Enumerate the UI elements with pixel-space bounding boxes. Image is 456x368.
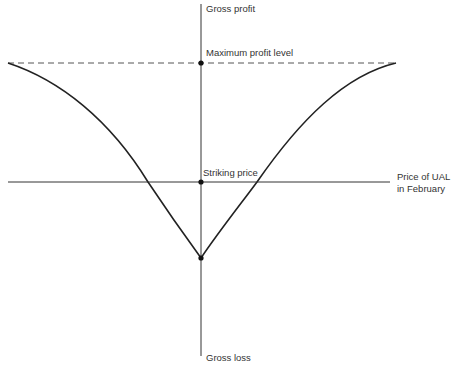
label-gross-loss: Gross loss: [206, 352, 251, 363]
label-striking-price: Striking price: [203, 167, 258, 178]
left-payoff-curve: [8, 63, 201, 258]
strike-point: [198, 179, 203, 184]
min-point: [198, 255, 203, 260]
right-payoff-curve: [201, 63, 396, 258]
label-x-axis-1: Price of UAL: [397, 171, 450, 182]
max-profit-point: [198, 60, 203, 65]
label-gross-profit: Gross profit: [206, 3, 255, 14]
label-x-axis-2: in February: [397, 183, 445, 194]
label-max-profit: Maximum profit level: [206, 47, 293, 58]
